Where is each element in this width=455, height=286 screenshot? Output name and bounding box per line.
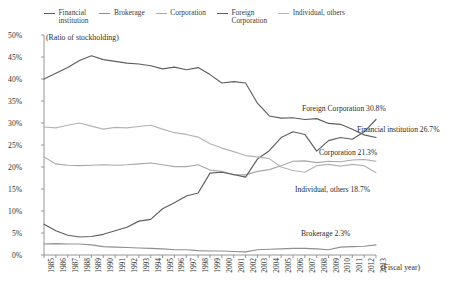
annotation-individual-others-18-7: Individual, others 18.7% [295, 185, 370, 194]
x-axis-labels: 1985198619871988198919901991199219931994… [0, 0, 455, 286]
annotation-brokerage-2-3: Brokerage 2.3% [301, 229, 350, 238]
x-tick-label: 2006 [296, 258, 305, 273]
x-tick-label: 2008 [320, 258, 329, 273]
x-tick-label: 1999 [213, 258, 222, 273]
x-tick-label: 1995 [166, 258, 175, 273]
stockholding-ratio-chart: Financial institution Brokerage Corporat… [0, 0, 455, 286]
x-tick-label: 1986 [59, 258, 68, 273]
x-tick-label: 2003 [260, 258, 269, 273]
annotation-financial-institution-26-7: Financial institution 26.7% [357, 125, 439, 134]
x-tick-label: 1997 [189, 258, 198, 273]
x-tick-label: 1994 [154, 258, 163, 273]
x-tick-label: 1992 [130, 258, 139, 273]
x-tick-label: 1996 [177, 258, 186, 273]
x-tick-label: 2010 [343, 258, 352, 273]
x-tick-label: 2007 [308, 258, 317, 273]
x-axis-note: (Fiscal year) [381, 263, 420, 272]
x-tick-label: 1990 [106, 258, 115, 273]
x-tick-label: 1998 [201, 258, 210, 273]
x-tick-label: 2009 [332, 258, 341, 273]
x-tick-label: 1989 [94, 258, 103, 273]
x-tick-label: 2004 [272, 258, 281, 273]
x-tick-label: 2001 [237, 258, 246, 273]
x-tick-label: 1993 [142, 258, 151, 273]
x-tick-label: 1987 [71, 258, 80, 273]
x-tick-label: 1988 [83, 258, 92, 273]
x-tick-label: 2002 [249, 258, 258, 273]
x-tick-label: 1991 [118, 258, 127, 273]
x-tick-label: 2011 [355, 258, 364, 273]
x-tick-label: 2000 [225, 258, 234, 273]
x-tick-label: 2012 [367, 258, 376, 273]
annotation-foreign-corporation-30-8: Foreign Corporation 30.8% [302, 104, 386, 113]
annotation-corporation-21-3: Corporation 21.3% [319, 148, 377, 157]
x-tick-label: 2005 [284, 258, 293, 273]
x-tick-label: 1985 [47, 258, 56, 273]
